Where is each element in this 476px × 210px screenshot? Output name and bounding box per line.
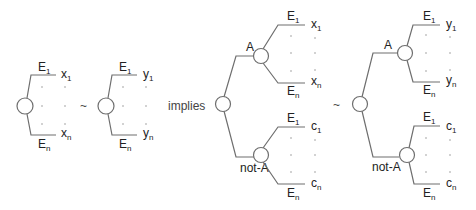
simple-tree-x: E1 En x1 xn: [17, 60, 72, 153]
outcome-last-label: xn: [311, 74, 321, 90]
chance-node-a: [254, 49, 269, 64]
chance-node: [98, 98, 114, 114]
event-e1-label: E1: [287, 111, 300, 127]
event-en-label: En: [287, 84, 299, 100]
root-chance-node: [353, 97, 368, 112]
outcome-first-label: c1: [446, 119, 457, 135]
branch-en: [263, 63, 305, 83]
outcome-first-label: x1: [61, 67, 72, 83]
event-e1-label: E1: [287, 9, 300, 25]
ellipsis-dots: [425, 137, 451, 173]
ellipsis-dots: [290, 35, 316, 72]
simple-tree-y: E1 En y1 yn: [98, 60, 154, 153]
event-en-label: En: [38, 137, 50, 153]
event-en-label: En: [423, 186, 435, 202]
branch-en: [263, 162, 305, 184]
outcome-last-label: cn: [311, 176, 321, 192]
event-en-label: En: [287, 186, 299, 202]
branch-not-a: [224, 111, 254, 157]
branch-a-label: A: [246, 40, 254, 54]
chance-node-not-a: [400, 148, 415, 163]
event-e1-label: E1: [423, 110, 436, 126]
branch-a: [224, 56, 254, 97]
chance-node: [17, 98, 33, 114]
event-en-label: En: [119, 137, 131, 153]
chance-node-not-a: [254, 148, 269, 163]
implies-label: implies: [168, 99, 205, 113]
ellipsis-dots: [122, 86, 147, 125]
outcome-last-label: cn: [446, 176, 456, 192]
branch-en: [409, 162, 440, 184]
decision-tree-diagram: E1 En x1 xn ~ E1 En y1 yn implies A not-…: [0, 0, 476, 210]
ellipsis-dots: [425, 34, 451, 72]
outcome-last-label: xn: [61, 126, 71, 142]
event-e1-label: E1: [423, 9, 436, 25]
outcome-first-label: x1: [311, 17, 322, 33]
outcome-first-label: c1: [311, 119, 322, 135]
compound-tree-y: A not-A E1 En y1 yn E1 En c1 cn: [353, 9, 458, 202]
root-chance-node: [216, 97, 231, 112]
branch-e1: [263, 127, 305, 148]
branch-a: [362, 53, 397, 97]
outcome-first-label: y1: [143, 67, 154, 83]
branch-not-a: [362, 111, 399, 157]
event-e1-label: E1: [38, 60, 51, 76]
branch-e1: [407, 25, 440, 46]
branch-en: [407, 60, 440, 82]
ellipsis-dots: [290, 137, 316, 173]
outcome-last-label: yn: [446, 73, 456, 89]
ellipsis-dots: [41, 86, 66, 125]
compound-tree-x: A not-A E1 En x1 xn E1 En c1 cn: [216, 9, 323, 202]
event-en-label: En: [423, 83, 435, 99]
similar-operator: ~: [80, 99, 87, 113]
outcome-first-label: y1: [446, 17, 457, 33]
outcome-last-label: yn: [143, 126, 153, 142]
chance-node-a: [398, 46, 413, 61]
branch-not-a-label: not-A: [372, 160, 401, 174]
branch-a-label: A: [384, 38, 392, 52]
event-e1-label: E1: [119, 60, 132, 76]
branch-e1: [263, 25, 305, 49]
branch-e1: [409, 126, 440, 148]
similar-operator: ~: [333, 98, 340, 112]
